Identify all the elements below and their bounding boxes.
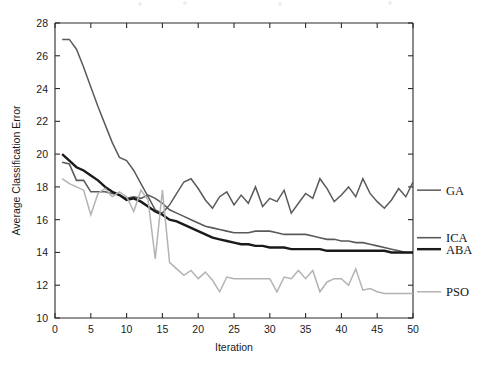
x-tick-label: 10	[121, 323, 133, 335]
x-tick-label: 50	[407, 323, 419, 335]
y-tick-label: 24	[36, 83, 48, 95]
x-tick-label: 15	[157, 323, 169, 335]
x-tick-label: 25	[228, 323, 240, 335]
axes-frame	[55, 23, 413, 318]
x-tick-label: 0	[52, 323, 58, 335]
chart-figure: 1012141618202224262805101520253035404550…	[0, 0, 486, 366]
x-tick-label: 5	[88, 323, 94, 335]
series-line-aba	[62, 154, 413, 252]
x-tick-label: 40	[336, 323, 348, 335]
y-tick-label: 14	[36, 246, 48, 258]
x-tick-label: 20	[192, 323, 204, 335]
x-axis-title: Iteration	[215, 341, 253, 353]
legend-label-ga: GA	[446, 184, 464, 198]
y-tick-label: 12	[36, 279, 48, 291]
legend-label-pso: PSO	[446, 285, 469, 299]
y-tick-label: 22	[36, 115, 48, 127]
x-tick-label: 45	[371, 323, 383, 335]
y-tick-label: 20	[36, 148, 48, 160]
series-line-ica	[62, 162, 413, 252]
scan-artifact	[130, 0, 430, 10]
y-tick-label: 10	[36, 312, 48, 324]
x-tick-label: 30	[264, 323, 276, 335]
series-line-ga	[62, 39, 413, 213]
series-line-pso	[62, 179, 413, 294]
line-chart: 1012141618202224262805101520253035404550…	[0, 0, 486, 366]
y-tick-label: 28	[36, 17, 48, 29]
y-tick-label: 18	[36, 181, 48, 193]
y-tick-label: 26	[36, 50, 48, 62]
legend-label-aba: ABA	[446, 243, 472, 257]
y-axis-title: Average Classification Error	[10, 105, 22, 235]
y-tick-label: 16	[36, 214, 48, 226]
x-tick-label: 35	[300, 323, 312, 335]
